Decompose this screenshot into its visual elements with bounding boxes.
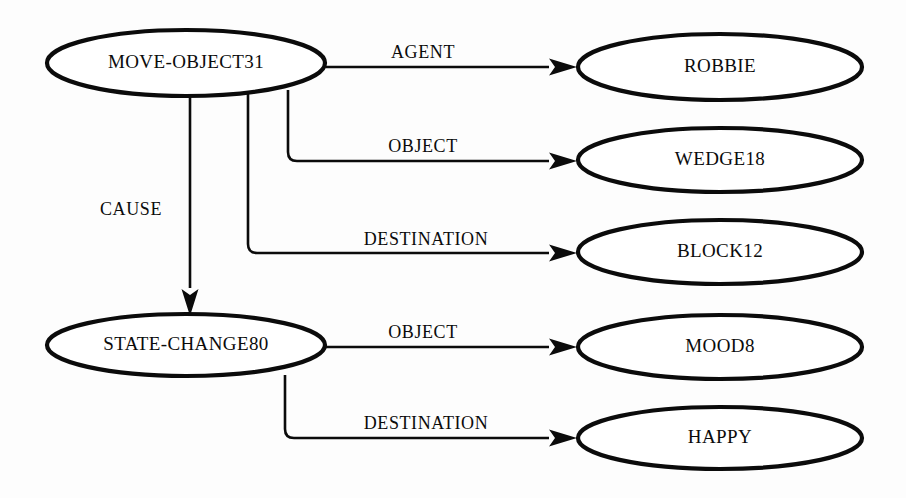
arrowhead-object-mood8: [549, 339, 577, 356]
nodes-layer: MOVE-OBJECT31ROBBIEWEDGE18BLOCK12STATE-C…: [47, 30, 862, 469]
edge-label-destination-happy: DESTINATION: [364, 413, 489, 433]
edge-label-cause: CAUSE: [100, 199, 162, 219]
node-label-robbie: ROBBIE: [684, 55, 756, 76]
node-wedge18[interactable]: WEDGE18: [578, 128, 862, 192]
edge-destination-block12: DESTINATION: [248, 93, 577, 262]
arrowhead-destination-block12: [549, 245, 577, 262]
node-label-mood8: MOOD8: [685, 335, 755, 356]
diagram-canvas: AGENTOBJECTDESTINATIONCAUSEOBJECTDESTINA…: [0, 0, 906, 498]
semantic-network-diagram: AGENTOBJECTDESTINATIONCAUSEOBJECTDESTINA…: [0, 0, 906, 498]
node-label-happy: HAPPY: [688, 426, 752, 447]
arrowhead-agent: [549, 59, 577, 76]
edge-label-destination-block12: DESTINATION: [364, 229, 489, 249]
edge-label-object-mood8: OBJECT: [388, 322, 458, 342]
node-mood8[interactable]: MOOD8: [578, 315, 862, 379]
edges-layer: AGENTOBJECTDESTINATIONCAUSEOBJECTDESTINA…: [100, 42, 577, 447]
node-happy[interactable]: HAPPY: [578, 407, 862, 469]
edge-label-object-wedge18: OBJECT: [388, 136, 458, 156]
node-label-state-change80: STATE-CHANGE80: [103, 333, 269, 354]
edge-object-mood8: OBJECT: [326, 322, 577, 356]
arrowhead-destination-happy: [549, 430, 577, 447]
arrowhead-object-wedge18: [549, 153, 577, 170]
node-label-move-object31: MOVE-OBJECT31: [108, 51, 264, 72]
edge-cause: CAUSE: [100, 94, 199, 316]
edge-object-wedge18: OBJECT: [288, 90, 577, 170]
edge-destination-happy: DESTINATION: [285, 375, 577, 447]
edge-label-agent: AGENT: [391, 42, 455, 62]
edge-agent: AGENT: [326, 42, 577, 76]
node-label-wedge18: WEDGE18: [675, 148, 765, 169]
node-robbie[interactable]: ROBBIE: [578, 34, 862, 100]
node-move-object31[interactable]: MOVE-OBJECT31: [47, 30, 325, 96]
node-block12[interactable]: BLOCK12: [578, 220, 862, 284]
node-state-change80[interactable]: STATE-CHANGE80: [47, 314, 325, 376]
node-label-block12: BLOCK12: [677, 240, 763, 261]
